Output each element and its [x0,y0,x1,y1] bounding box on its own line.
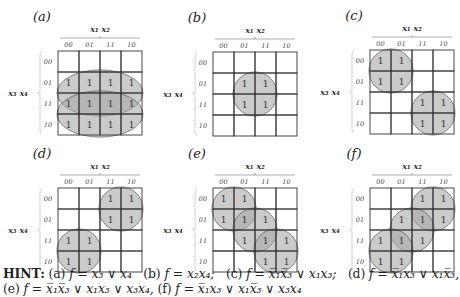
cell-value-one: 1 [399,236,405,246]
col-tick: 11 [418,178,426,186]
kmap-cell [121,51,142,72]
kmap-cell [433,230,454,251]
cell-value-one: 1 [221,215,227,225]
col-var-label: x₁ x₂ [244,25,265,35]
cell-value-one: 1 [284,236,290,246]
col-tick: 01 [85,178,93,186]
row-tick: 00 [199,195,207,203]
cell-value-one: 1 [108,194,114,204]
kmap-cell [58,188,79,209]
kmap-cell [433,50,454,71]
cell-value-one: 1 [129,78,135,88]
kmap-cell [213,73,234,94]
cell-value-one: 1 [87,236,93,246]
col-tick: 10 [127,178,135,186]
cell-value-one: 1 [87,78,93,88]
col-tick: 01 [240,178,248,186]
row-brace [193,189,198,271]
cell-value-one: 1 [263,215,269,225]
cell-value-one: 1 [66,78,72,88]
col-tick: 01 [397,178,405,186]
col-tick: 11 [106,178,114,186]
cell-value-one: 1 [129,120,135,130]
col-tick: 00 [376,40,384,48]
kmap-cell [213,94,234,115]
cell-value-one: 1 [87,120,93,130]
row-tick: 11 [199,101,207,109]
row-tick: 10 [199,258,207,266]
cell-value-one: 1 [420,236,426,246]
kmap-title: (f) [347,146,362,161]
cell-value-one: 1 [378,236,384,246]
col-tick: 10 [439,178,447,186]
col-tick: 10 [282,42,290,50]
col-tick: 11 [261,42,269,50]
kmap-cell [370,188,391,209]
row-tick: 01 [44,216,52,224]
row-tick: 10 [356,258,364,266]
row-tick: 11 [199,237,207,245]
cell-value-one: 1 [378,56,384,66]
cell-value-one: 1 [420,215,426,225]
row-tick: 10 [199,122,207,130]
row-tick: 01 [356,78,364,86]
col-tick: 01 [240,42,248,50]
cell-value-one: 1 [399,56,405,66]
kmap-f: (f)x₁ x₂00011110x₃ x₄000111101111111111 [319,146,455,273]
hint-text: HINT: (a) f = x₃ ∨ x₄ (b) f = x₂x₄; (c) … [3,266,459,296]
row-var-label: x₃ x₄ [162,225,183,235]
kmap-a: (a)x₁ x₂00011110x₃ x₄0001111011111111111… [7,9,143,137]
kmap-cell [213,230,234,251]
row-tick: 10 [356,120,364,128]
cell-value-one: 1 [378,77,384,87]
cell-value-one: 1 [129,215,135,225]
col-var-label: x₁ x₂ [89,161,110,171]
col-tick: 11 [418,40,426,48]
row-tick: 11 [356,237,364,245]
hint-a-expr: f = x₃ ∨ x₄ [69,266,132,281]
hint-d-tag: (d) [348,266,365,281]
col-var-label: x₁ x₂ [401,23,422,33]
kmap-cell [391,92,412,113]
row-brace [350,189,355,271]
kmap-title: (e) [188,146,206,161]
cell-value-one: 1 [129,99,135,109]
cell-value-one: 1 [263,236,269,246]
hint-c-expr: f = x̅₁x̅₃ ∨ x₁x₃; [246,266,336,281]
col-tick: 00 [376,178,384,186]
kmap-cell [276,73,297,94]
row-tick: 10 [44,258,52,266]
cell-value-one: 1 [441,215,447,225]
hint-e-expr: f = x̅₁x̅₃ ∨ x₁x₃ ∨ x₃x₄, [24,281,154,296]
cell-value-one: 1 [66,236,72,246]
cell-value-one: 1 [108,78,114,88]
kmap-cell [213,52,234,73]
row-var-label: x₃ x₄ [319,225,340,235]
cell-value-one: 1 [263,79,269,89]
cell-value-one: 1 [441,194,447,204]
row-tick: 01 [199,216,207,224]
cell-value-one: 1 [66,120,72,130]
row-var-label: x₃ x₄ [7,88,28,98]
kmap-e: (e)x₁ x₂00011110x₃ x₄000111101111111111 [162,146,298,273]
row-brace [38,52,43,134]
cell-value-one: 1 [66,99,72,109]
row-tick: 00 [356,195,364,203]
hint-f-tag: (f) [158,281,172,296]
kmap-cell [412,50,433,71]
kmap-b: (b)x₁ x₂00011110x₃ x₄000111101111 [162,10,297,136]
kmap-cell [255,188,276,209]
cell-value-one: 1 [242,100,248,110]
row-var-label: x₃ x₄ [7,225,28,235]
col-tick: 00 [64,41,72,49]
col-tick: 10 [282,178,290,186]
cell-value-one: 1 [242,236,248,246]
row-tick: 00 [44,195,52,203]
col-tick: 01 [85,41,93,49]
kmap-cell [276,209,297,230]
hint-label: HINT: [3,266,45,281]
kmap-cell [391,113,412,134]
hint-d-expr: f = x̅₁x₃ ∨ x₁x̅₃, [369,266,459,281]
row-tick: 00 [199,59,207,67]
row-tick: 11 [44,100,52,108]
